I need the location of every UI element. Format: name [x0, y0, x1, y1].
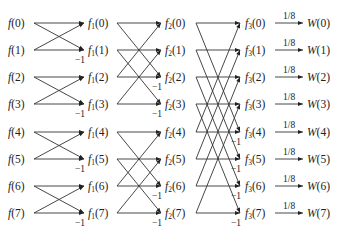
scale-weight-2: 1/8 — [283, 65, 295, 75]
node-label-stage3-2: f3(2) — [245, 71, 266, 85]
node-label-input-0: f(0) — [8, 17, 25, 30]
node-label-stage2-7: f2(7) — [165, 207, 186, 221]
node-label-output-6: W(6) — [307, 180, 330, 193]
neg-weight-s2-7: −1 — [152, 218, 162, 228]
node-label-input-6: f(6) — [8, 180, 25, 193]
node-label-stage2-6: f2(6) — [165, 180, 186, 194]
node-label-stage2-1: f2(1) — [165, 44, 186, 58]
scale-weight-6: 1/8 — [283, 174, 295, 184]
neg-weight-s1-7: −1 — [75, 218, 85, 228]
node-label-input-1: f(1) — [8, 44, 25, 57]
node-label-output-5: W(5) — [307, 153, 330, 166]
node-label-stage2-2: f2(2) — [165, 71, 186, 85]
node-label-stage3-0: f3(0) — [245, 17, 266, 31]
node-label-stage3-7: f3(7) — [245, 207, 266, 221]
neg-weight-s3-6: −1 — [231, 191, 241, 201]
scale-weight-3: 1/8 — [283, 92, 295, 102]
node-label-stage2-3: f2(3) — [165, 98, 186, 112]
node-labels: f(0)f(1)f(2)f(3)f(4)f(5)f(6)f(7)f1(0)f1(… — [8, 17, 330, 221]
node-label-output-1: W(1) — [307, 44, 330, 57]
node-label-output-7: W(7) — [307, 207, 330, 220]
node-label-stage3-5: f3(5) — [245, 153, 266, 167]
node-label-input-3: f(3) — [8, 98, 25, 111]
scale-weight-1: 1/8 — [283, 38, 295, 48]
node-label-stage1-3: f1(3) — [88, 98, 109, 112]
neg-weight-s1-3: −1 — [75, 109, 85, 119]
scale-weight-0: 1/8 — [283, 11, 295, 21]
node-label-stage1-6: f1(6) — [88, 180, 109, 194]
node-label-stage1-0: f1(0) — [88, 17, 109, 31]
neg-weight-s1-5: −1 — [75, 164, 85, 174]
node-label-stage3-3: f3(3) — [245, 98, 266, 112]
node-label-input-7: f(7) — [8, 207, 25, 220]
neg-weight-s3-7: −1 — [231, 218, 241, 228]
node-label-output-3: W(3) — [307, 98, 330, 111]
node-label-input-4: f(4) — [8, 126, 25, 139]
node-label-stage3-1: f3(1) — [245, 44, 266, 58]
node-label-output-0: W(0) — [307, 17, 330, 30]
node-label-output-4: W(4) — [307, 126, 330, 139]
node-label-stage3-4: f3(4) — [245, 126, 266, 140]
node-label-stage1-5: f1(5) — [88, 153, 109, 167]
node-label-stage1-7: f1(7) — [88, 207, 109, 221]
node-label-stage1-4: f1(4) — [88, 126, 109, 140]
node-label-stage1-1: f1(1) — [88, 44, 109, 58]
neg-weight-s3-5: −1 — [231, 164, 241, 174]
node-label-stage3-6: f3(6) — [245, 180, 266, 194]
node-label-input-5: f(5) — [8, 153, 25, 166]
neg-weight-s2-2: −1 — [152, 82, 162, 92]
neg-weight-s3-4: −1 — [231, 137, 241, 147]
node-label-input-2: f(2) — [8, 71, 25, 84]
neg-weight-s2-3: −1 — [152, 109, 162, 119]
scale-weight-5: 1/8 — [283, 147, 295, 157]
neg-weight-s1-1: −1 — [75, 55, 85, 65]
node-label-stage2-4: f2(4) — [165, 126, 186, 140]
scale-weight-4: 1/8 — [283, 120, 295, 130]
fft-butterfly-diagram: f(0)f(1)f(2)f(3)f(4)f(5)f(6)f(7)f1(0)f1(… — [0, 0, 341, 240]
scale-weight-7: 1/8 — [283, 201, 295, 211]
neg-weight-s2-6: −1 — [152, 191, 162, 201]
node-label-stage2-0: f2(0) — [165, 17, 186, 31]
node-label-stage1-2: f1(2) — [88, 71, 109, 85]
node-label-stage2-5: f2(5) — [165, 153, 186, 167]
node-label-output-2: W(2) — [307, 71, 330, 84]
